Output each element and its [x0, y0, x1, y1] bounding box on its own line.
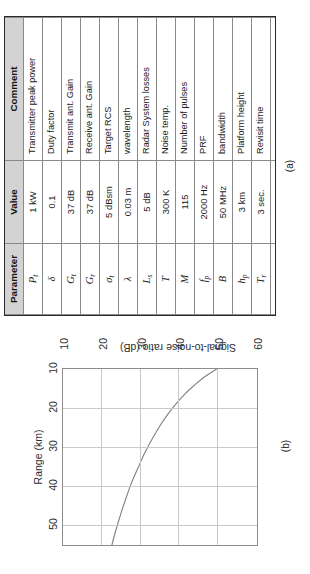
cell-value: 37 dB	[62, 161, 81, 244]
radar-parameter-table: Parameter Value Comment Pt1 kWTransmitte…	[5, 17, 276, 315]
cell-value: 5 dB	[138, 161, 157, 244]
cell-parameter: hp	[233, 244, 252, 315]
cell-comment: Duty factor	[43, 18, 62, 161]
cell-comment: Revisit time	[252, 18, 271, 161]
chart-gridline-horizontal	[178, 369, 179, 545]
cell-parameter: Ls	[138, 244, 157, 315]
table-row: B50 MHzbandwidth	[214, 18, 233, 315]
cell-comment: Radar System losses	[138, 18, 157, 161]
parameter-subscript: r	[258, 275, 267, 278]
cell-value: 115	[176, 161, 195, 244]
chart-x-tick-label: 40	[47, 479, 59, 491]
panel-a-caption: (a)	[284, 16, 295, 316]
cell-parameter: σt	[100, 244, 119, 315]
table-row: Gt37 dBTransmit ant. Gain	[62, 18, 81, 315]
cell-comment: PRF	[195, 18, 214, 161]
panel-b-chart: 1020304050 102030405060 Range (km) Signa…	[0, 324, 310, 568]
cell-parameter: Pt	[24, 244, 43, 315]
cell-comment: Noise temp.	[157, 18, 176, 161]
chart-gridline-vertical	[63, 486, 257, 487]
cell-comment: Platform height	[233, 18, 252, 161]
chart-gridline-vertical	[63, 447, 257, 448]
cell-value: 37 dB	[81, 161, 100, 244]
parameter-subscript: p	[201, 276, 210, 280]
chart-x-tick-label: 50	[47, 519, 59, 531]
table-row: λ0.03 mwavelength	[119, 18, 138, 315]
table-row: Fn5 dBNoise factor	[271, 18, 277, 315]
cell-comment: Target RCS	[100, 18, 119, 161]
cell-value: 5 dBsm	[100, 161, 119, 244]
chart-y-axis-label: Signal-to-noise ratio (dB)	[80, 342, 276, 354]
cell-parameter: Gr	[81, 244, 100, 315]
cell-parameter: δ	[43, 244, 62, 315]
parameter-subscript: r	[87, 274, 96, 277]
parameter-subscript: s	[144, 275, 153, 278]
column-header-parameter: Parameter	[5, 244, 24, 315]
table-row: δ0.1Duty factor	[43, 18, 62, 315]
radar-parameter-table-wrapper: Parameter Value Comment Pt1 kWTransmitte…	[4, 16, 276, 316]
table-header-row: Parameter Value Comment	[5, 18, 24, 315]
cell-value: 0.03 m	[119, 161, 138, 244]
cell-comment: wavelength	[119, 18, 138, 161]
cell-value: 0.1	[43, 161, 62, 244]
cell-value: 5 dB	[271, 161, 277, 244]
chart-gridline-vertical	[63, 408, 257, 409]
cell-comment: Receive ant. Gain	[81, 18, 100, 161]
cell-parameter: fp	[195, 244, 214, 315]
table-body: Pt1 kWTransmitter peak powerδ0.1Duty fac…	[24, 18, 277, 315]
cell-parameter: Tr	[252, 244, 271, 315]
cell-comment: Transmitter peak power	[24, 18, 43, 161]
panel-a-table: Parameter Value Comment Pt1 kWTransmitte…	[4, 4, 310, 316]
chart-gridline-horizontal	[101, 369, 102, 545]
cell-value: 3 sec.	[252, 161, 271, 244]
table-row: T300 KNoise temp.	[157, 18, 176, 315]
table-row: hp3 kmPlatform height	[233, 18, 252, 315]
table-row: Ls5 dBRadar System losses	[138, 18, 157, 315]
chart-plot-area	[62, 368, 258, 546]
cell-parameter: B	[214, 244, 233, 315]
chart-gridline-vertical	[63, 525, 257, 526]
chart-x-tick-label: 10	[47, 362, 59, 374]
table-row: fp2000 HzPRF	[195, 18, 214, 315]
cell-parameter: T	[157, 244, 176, 315]
figure-page: 1020304050 102030405060 Range (km) Signa…	[0, 0, 310, 574]
cell-parameter: Fn	[271, 244, 277, 315]
cell-parameter: M	[176, 244, 195, 315]
parameter-subscript: t	[30, 275, 39, 277]
table-row: σt5 dBsmTarget RCS	[100, 18, 119, 315]
table-row: Gr37 dBReceive ant. Gain	[81, 18, 100, 315]
cell-comment: Number of pulses	[176, 18, 195, 161]
chart-rotated-group: 1020304050 102030405060 Range (km) Signa…	[0, 324, 272, 568]
cell-value: 1 kW	[24, 161, 43, 244]
chart-x-tick-label: 30	[47, 440, 59, 452]
snr-curve	[63, 369, 257, 545]
cell-value: 2000 Hz	[195, 161, 214, 244]
cell-value: 3 km	[233, 161, 252, 244]
chart-x-tick-label: 20	[47, 401, 59, 413]
cell-comment: Noise factor	[271, 18, 277, 161]
cell-comment: Transmit ant. Gain	[62, 18, 81, 161]
parameter-subscript: t	[68, 274, 77, 276]
cell-comment: bandwidth	[214, 18, 233, 161]
cell-value: 50 MHz	[214, 161, 233, 244]
cell-parameter: λ	[119, 244, 138, 315]
table-row: Tr3 sec.Revisit time	[252, 18, 271, 315]
cell-parameter: Gt	[62, 244, 81, 315]
table-row: M115Number of pulses	[176, 18, 195, 315]
parameter-subscript: t	[106, 275, 115, 277]
panel-b-caption: (b)	[280, 324, 291, 568]
parameter-subscript: p	[239, 274, 248, 278]
chart-gridline-horizontal	[140, 369, 141, 545]
chart-y-tick-label: 10	[58, 338, 70, 362]
chart-gridline-horizontal	[217, 369, 218, 545]
column-header-comment: Comment	[5, 18, 24, 161]
table-row: Pt1 kWTransmitter peak power	[24, 18, 43, 315]
chart-x-axis-label: Range (km)	[32, 368, 44, 546]
cell-value: 300 K	[157, 161, 176, 244]
column-header-value: Value	[5, 161, 24, 244]
